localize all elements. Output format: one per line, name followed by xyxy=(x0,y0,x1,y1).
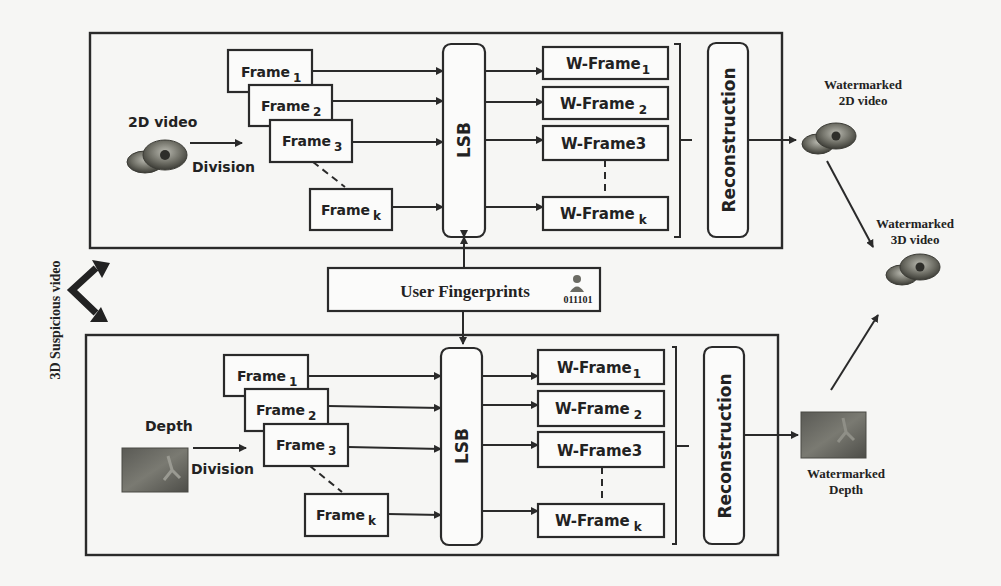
wframe-box-3: W-Frame3 xyxy=(543,126,668,160)
frame-box-k: Framek xyxy=(305,494,388,536)
top-panel-2d-video: 2D video Division Frame1 Frame2 Frame3 F… xyxy=(90,33,903,248)
bottom-panel-frame xyxy=(86,335,778,555)
frames-ellipsis-connector xyxy=(310,466,342,492)
watermarked-depth-thumbnail xyxy=(801,412,866,458)
wframe-box-1: W-Frame1 xyxy=(543,47,668,79)
wframe-box-3: W-Frame3 xyxy=(538,432,664,467)
svg-text:LSB: LSB xyxy=(454,122,474,158)
output-label-watermarked-3d: Watermarked3D video xyxy=(876,216,955,247)
division-label-bottom: Division xyxy=(191,461,254,477)
division-label: Division xyxy=(192,159,255,175)
svg-text:Reconstruction: Reconstruction xyxy=(719,67,739,212)
wframes-bracket xyxy=(672,347,676,544)
bottom-panel-depth: Depth Division Frame1 Frame2 Frame3 Fram… xyxy=(86,335,886,555)
wframe-box-2: W-Frame2 xyxy=(538,391,664,426)
svg-text:LSB: LSB xyxy=(452,428,472,464)
output-label-watermarked-2d: Watermarked2D video xyxy=(824,77,903,108)
output-label-watermarked-depth: WatermarkedDepth xyxy=(807,466,886,497)
depth-map-thumbnail xyxy=(122,448,188,492)
svg-text:User Fingerprints: User Fingerprints xyxy=(400,282,530,301)
input-label-depth: Depth xyxy=(145,418,193,434)
svg-text:Reconstruction: Reconstruction xyxy=(715,373,735,518)
film-reel-icon xyxy=(127,140,187,173)
top-panel-frame xyxy=(90,33,782,248)
reconstruction-block: Reconstruction xyxy=(704,347,744,544)
wframe-box-k: W-Framek xyxy=(538,504,664,537)
input-label-2d-video: 2D video xyxy=(128,114,198,130)
frame-box-3: Frame3 xyxy=(270,120,352,162)
lsb-block: LSB xyxy=(443,44,485,237)
frame-box-k: Framek xyxy=(310,189,392,230)
svg-text:W-Frame3: W-Frame3 xyxy=(557,442,642,460)
user-fingerprints-block: User Fingerprints 011101 xyxy=(328,268,600,311)
watermarking-diagram: 2D video Division Frame1 Frame2 Frame3 F… xyxy=(0,0,1001,586)
watermarked-2d-video-reel-icon xyxy=(802,123,856,154)
frames-ellipsis-connector xyxy=(313,162,345,187)
fingerprint-bits: 011101 xyxy=(564,294,593,305)
reconstruction-block: Reconstruction xyxy=(708,43,748,237)
wframe-box-2: W-Frame2 xyxy=(543,87,668,119)
watermarked-3d-video-reel-icon xyxy=(886,254,940,285)
arrow-2d-to-3d xyxy=(827,161,873,247)
wframe-box-k: W-Framek xyxy=(543,197,668,230)
lsb-block: LSB xyxy=(441,348,482,545)
side-label-3d-suspicious-video: 3D Suspicious video xyxy=(48,260,63,379)
wframes-bracket xyxy=(674,44,680,237)
wframe-box-1: W-Frame1 xyxy=(538,350,664,384)
frame-box-3: Frame3 xyxy=(264,424,348,466)
arrow-depth-to-3d xyxy=(831,315,878,390)
svg-text:W-Frame3: W-Frame3 xyxy=(561,135,646,153)
double-headed-arrow-icon xyxy=(72,260,110,322)
